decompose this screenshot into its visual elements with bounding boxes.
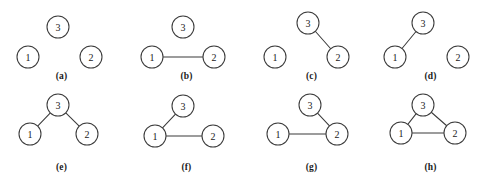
node-label: 2 (211, 131, 216, 142)
graph-panel-b: 312(b) (125, 0, 248, 89)
graph-node-1: 1 (19, 123, 41, 145)
graph-node-2: 2 (76, 123, 98, 145)
node-label: 1 (276, 129, 281, 140)
graph-node-2: 2 (203, 46, 225, 68)
node-label: 3 (181, 101, 186, 112)
node-label: 2 (453, 128, 458, 139)
graph-node-1: 1 (390, 122, 412, 144)
graph-node-2: 2 (327, 46, 349, 68)
graph-edge-1-3 (163, 114, 176, 128)
node-label: 2 (335, 129, 340, 140)
graph-node-3: 3 (299, 94, 321, 116)
node-label: 2 (456, 52, 461, 63)
panel-caption: (c) (250, 71, 373, 81)
node-label: 3 (56, 100, 61, 111)
panel-caption: (h) (369, 162, 492, 172)
graph-node-3: 3 (172, 16, 194, 38)
graph-node-3: 3 (47, 94, 69, 116)
graph-node-2: 2 (447, 46, 469, 68)
graph-node-1: 1 (264, 46, 286, 68)
panel-caption: (e) (0, 162, 123, 172)
node-label: 3 (421, 18, 426, 29)
node-label: 3 (421, 100, 426, 111)
graph-node-3: 3 (172, 95, 194, 117)
graph-node-1: 1 (144, 125, 166, 147)
node-label: 1 (28, 129, 33, 140)
node-label: 3 (181, 22, 186, 33)
graph-node-2: 2 (326, 123, 348, 145)
node-label: 1 (399, 128, 404, 139)
graph-node-3: 3 (297, 12, 319, 34)
graph-figure: 312(a)312(b)312(c)312(d)312(e)312(f)312(… (0, 0, 492, 179)
graph-edge-3-2 (318, 113, 330, 126)
node-label: 1 (150, 52, 155, 63)
node-label: 3 (56, 22, 61, 33)
graph-node-1: 1 (141, 46, 163, 68)
graph-panel-d: 312(d) (369, 0, 492, 89)
node-label: 3 (308, 100, 313, 111)
node-label: 3 (306, 18, 311, 29)
node-label: 2 (85, 129, 90, 140)
graph-edge-3-2 (66, 113, 79, 126)
node-label: 2 (336, 52, 341, 63)
graph-panel-a: 312(a) (0, 0, 123, 89)
node-label: 1 (393, 52, 398, 63)
panel-caption: (f) (125, 162, 248, 172)
graph-panel-c: 312(c) (250, 0, 373, 89)
node-label: 1 (273, 52, 278, 63)
graph-node-1: 1 (384, 46, 406, 68)
graph-panel-g: 312(g) (250, 90, 373, 179)
graph-node-2: 2 (444, 122, 466, 144)
graph-panel-f: 312(f) (125, 90, 248, 179)
panel-caption: (g) (250, 162, 373, 172)
graph-node-1: 1 (267, 123, 289, 145)
node-label: 2 (89, 52, 94, 63)
graph-node-1: 1 (17, 46, 39, 68)
panel-caption: (d) (369, 71, 492, 81)
node-label: 2 (212, 52, 217, 63)
graph-node-2: 2 (202, 125, 224, 147)
graph-edge-3-2 (431, 112, 446, 126)
graph-panel-h: 312(h) (369, 90, 492, 179)
graph-node-3: 3 (47, 16, 69, 38)
panel-caption: (a) (0, 71, 123, 81)
graph-edge-1-3 (402, 31, 416, 48)
graph-edge-3-2 (315, 31, 330, 49)
panel-caption: (b) (125, 71, 248, 81)
graph-panel-e: 312(e) (0, 90, 123, 179)
graph-edge-3-1 (38, 113, 51, 126)
graph-edge-1-3 (408, 114, 416, 125)
graph-node-3: 3 (412, 12, 434, 34)
graph-node-2: 2 (80, 46, 102, 68)
node-label: 1 (26, 52, 31, 63)
graph-node-3: 3 (412, 94, 434, 116)
node-label: 1 (153, 131, 158, 142)
